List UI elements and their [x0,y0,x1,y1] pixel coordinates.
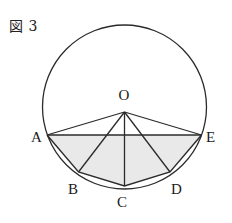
vertex-label-D: D [171,181,182,197]
vertex-label-A: A [31,129,42,145]
radius-OA [47,112,125,135]
vertex-label-B: B [68,181,78,197]
vertex-label-E: E [206,129,215,145]
figure-container: 図 3 O A B C D E [0,0,232,223]
vertex-label-O: O [119,87,130,103]
geometry-diagram: O A B C D E [0,0,232,223]
radius-OE [125,112,202,135]
vertex-label-C: C [117,194,127,210]
